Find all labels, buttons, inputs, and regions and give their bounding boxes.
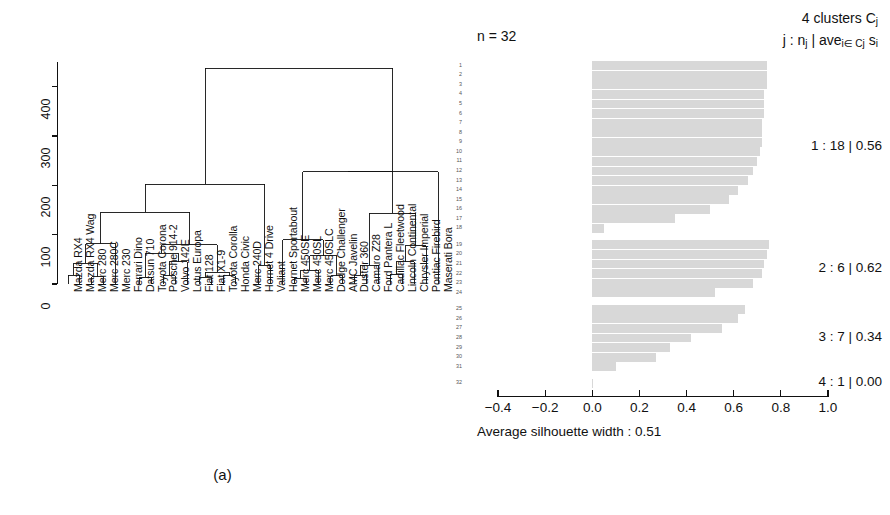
x-tick-label: 0.8 xyxy=(758,400,804,415)
leaf-label: Hornet Sportabout xyxy=(287,207,299,292)
leaf-label: Hornet 4 Drive xyxy=(263,225,275,292)
leaf-label: Toyota Corona xyxy=(156,224,168,292)
header-line-2: j : nj | avei∈ Cj si xyxy=(783,30,878,52)
x-tick xyxy=(827,390,828,397)
header-clusters-subscript: j xyxy=(876,16,878,27)
silhouette-bar xyxy=(592,195,729,204)
x-tick-label: −0.2 xyxy=(522,400,568,415)
observation-number: 20 xyxy=(449,251,462,256)
observation-number: 10 xyxy=(449,149,462,154)
silhouette-bar xyxy=(592,343,670,352)
average-silhouette-width-label: Average silhouette width : 0.51 xyxy=(477,424,661,439)
observation-number: 5 xyxy=(449,101,462,106)
observation-number: 12 xyxy=(449,168,462,173)
silhouette-bar xyxy=(592,353,656,362)
observation-number: 32 xyxy=(449,380,462,385)
leaf-label: Chrysler Imperial xyxy=(418,214,430,292)
leaf-label: Merc 280 xyxy=(96,249,108,292)
silhouette-bar xyxy=(592,334,691,343)
leaf-label: Fiat X1-9 xyxy=(215,250,227,292)
observation-number: 6 xyxy=(449,111,462,116)
silhouette-bar xyxy=(592,240,769,249)
silhouette-bar xyxy=(592,119,762,128)
cluster-summary-label: 4 : 1 | 0.00 xyxy=(818,374,882,389)
x-tick xyxy=(545,390,546,397)
leaf-label: Ford Pantera L xyxy=(382,223,394,292)
observation-number: 18 xyxy=(449,225,462,230)
silhouette-bar xyxy=(592,80,766,89)
silhouette-bar xyxy=(592,288,715,297)
observation-number: 27 xyxy=(449,325,462,330)
x-tick-label: 0.4 xyxy=(664,400,710,415)
cluster-summary-label: 1 : 18 | 0.56 xyxy=(811,138,882,153)
observation-number: 4 xyxy=(449,91,462,96)
observation-number: 25 xyxy=(449,306,462,311)
silhouette-bar xyxy=(592,90,764,99)
silhouette-bar xyxy=(592,100,764,109)
leaf-label: Dodge Challenger xyxy=(335,208,347,292)
silhouette-x-axis xyxy=(498,396,828,397)
observation-number: 26 xyxy=(449,316,462,321)
silhouette-bar xyxy=(592,379,593,388)
observation-number: 29 xyxy=(449,345,462,350)
observation-number: 21 xyxy=(449,261,462,266)
observation-number: 16 xyxy=(449,206,462,211)
leaf-label: Porsche 914-2 xyxy=(167,224,179,292)
observation-number: 8 xyxy=(449,130,462,135)
cluster-summary-label: 2 : 6 | 0.62 xyxy=(818,260,882,275)
observation-number: 17 xyxy=(449,216,462,221)
observation-number: 14 xyxy=(449,187,462,192)
leaf-label: Mazda RX4 Wag xyxy=(84,214,96,292)
x-tick xyxy=(733,390,734,397)
x-tick-label: 0.0 xyxy=(569,400,615,415)
observation-number: 22 xyxy=(449,271,462,276)
panel-silhouette: n = 32 4 clusters Cj j : nj | avei∈ Cj s… xyxy=(445,0,890,515)
silhouette-bar xyxy=(592,186,738,195)
observation-number: 28 xyxy=(449,335,462,340)
observation-number: 23 xyxy=(449,280,462,285)
leaf-label: Lincoln Continental xyxy=(406,204,418,292)
x-tick xyxy=(497,390,498,397)
leaf-label: Mazda RX4 xyxy=(72,238,84,292)
leaf-label: Datsun 710 xyxy=(144,239,156,292)
silhouette-bar xyxy=(592,214,675,223)
x-tick-label: 0.2 xyxy=(616,400,662,415)
observation-number: 13 xyxy=(449,178,462,183)
silhouette-bar xyxy=(592,157,757,166)
leaf-label: Fiat 128 xyxy=(203,255,215,292)
silhouette-bar xyxy=(592,147,759,156)
silhouette-bar xyxy=(592,176,748,185)
silhouette-bar xyxy=(592,128,762,137)
observation-number: 19 xyxy=(449,242,462,247)
observation-number: 1 xyxy=(449,63,462,68)
leaf-label: Lotus Europa xyxy=(191,230,203,292)
silhouette-bar xyxy=(592,224,604,233)
silhouette-bar xyxy=(592,250,766,259)
x-tick-label: 0.6 xyxy=(711,400,757,415)
leaf-label: Valiant xyxy=(275,261,287,292)
leaf-label: Merc 450SLC xyxy=(323,228,335,292)
observation-number: 24 xyxy=(449,290,462,295)
leaf-label: Merc 450SL xyxy=(311,236,323,292)
dendrogram-tree xyxy=(0,0,445,420)
x-tick xyxy=(592,390,593,397)
observation-number: 2 xyxy=(449,72,462,77)
leaf-label: Merc 450SE xyxy=(299,235,311,292)
leaf-label: Honda Civic xyxy=(239,236,251,292)
silhouette-plot: n = 32 4 clusters Cj j : nj | avei∈ Cj s… xyxy=(445,0,890,460)
silhouette-bar xyxy=(592,71,766,80)
cluster-summary-label: 3 : 7 | 0.34 xyxy=(818,329,882,344)
observation-number: 9 xyxy=(449,139,462,144)
leaf-label: Toyota Corolla xyxy=(227,226,239,292)
figure-caption-a: (a) xyxy=(0,466,445,483)
silhouette-bar xyxy=(592,314,738,323)
leaf-label: Merc 280C xyxy=(108,241,120,292)
dendrogram-plot: 0100200300400 Mazda RX4Mazda RX4 WagMerc… xyxy=(0,0,445,420)
silhouette-bar xyxy=(592,138,762,147)
leaf-label: Merc 240D xyxy=(251,241,263,292)
silhouette-bar xyxy=(592,167,752,176)
silhouette-bar xyxy=(592,61,766,70)
leaf-label: Camaro Z28 xyxy=(370,234,382,292)
leaf-label: Pontiac Firebird xyxy=(430,219,442,292)
leaf-label: Ferrari Dino xyxy=(132,237,144,292)
